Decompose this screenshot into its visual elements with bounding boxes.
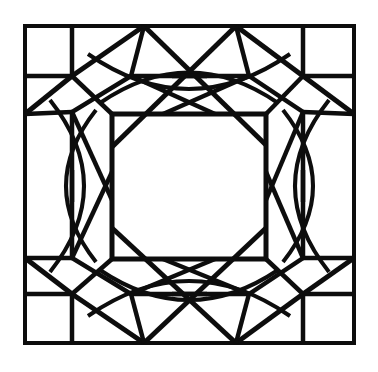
edge-connector-right-top xyxy=(303,112,354,114)
figure-background xyxy=(0,0,378,372)
geometric-pattern-figure: Geometric Quilt Block Pattern xyxy=(0,0,378,372)
edge-connector-left-top xyxy=(25,112,72,114)
